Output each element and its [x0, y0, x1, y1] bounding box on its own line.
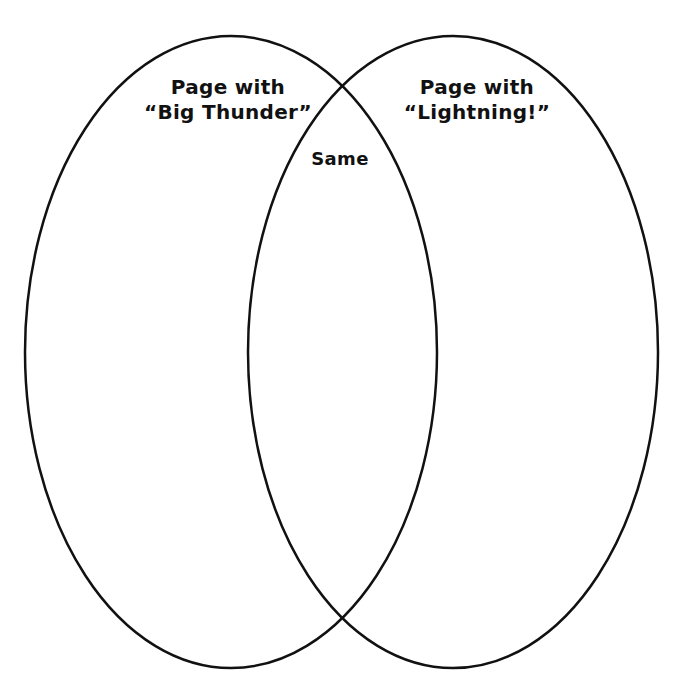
- right-circle: [248, 36, 658, 668]
- left-set-label-line2: “Big Thunder”: [133, 100, 323, 125]
- intersection-label: Same: [300, 146, 380, 171]
- intersection-label-text: Same: [300, 146, 380, 171]
- right-set-label-line1: Page with: [382, 75, 572, 100]
- right-set-label: Page with “Lightning!”: [382, 75, 572, 125]
- right-set-label-line2: “Lightning!”: [382, 100, 572, 125]
- venn-diagram: [0, 0, 684, 696]
- left-circle: [25, 36, 437, 668]
- left-set-label-line1: Page with: [133, 75, 323, 100]
- left-set-label: Page with “Big Thunder”: [133, 75, 323, 125]
